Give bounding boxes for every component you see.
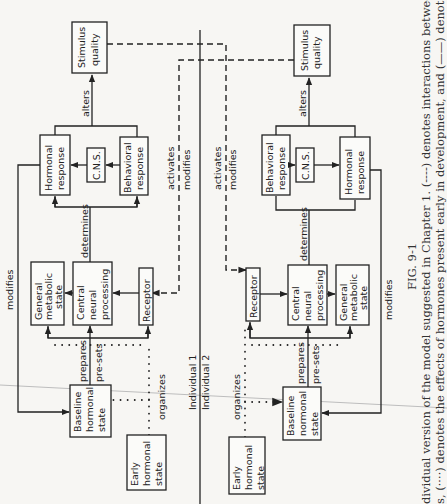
ind1-activates-label: activates	[165, 147, 176, 190]
ind2-baseline-text-1: Baseline	[285, 396, 296, 436]
ind1-baseline-text-1: Baseline	[72, 392, 83, 432]
ind2-baseline-text-3: state	[309, 412, 320, 436]
ind2-baseline-text-2: normonal	[297, 391, 308, 436]
ind1-prepares-label: prepares	[77, 340, 88, 382]
ind1-behavioral-text-2: response	[134, 147, 145, 190]
ind1-early-text-2: hormonal	[141, 441, 152, 486]
ind2-early-text-2: hormonal	[243, 445, 254, 490]
ind2-hormonal-text-2: response	[355, 151, 366, 194]
ind1-organizes-label: organizes	[156, 374, 167, 420]
ind1-hormonal-text-1: Hormonal	[43, 145, 54, 191]
ind2-presets-label: pre-sets	[310, 345, 321, 384]
ind2-cns-text: C.N.S.	[300, 151, 311, 180]
ind2-modifies-label: modifies	[383, 279, 394, 320]
ind1-hormonal-text-2: response	[55, 147, 66, 190]
figure-caption-line-1: dividual version of the model suggested …	[419, 0, 433, 504]
figure-number: FIG. 9-1	[405, 243, 419, 290]
ind2-stimulus-text-2: quality	[311, 36, 322, 69]
figure-diagram: Individual 1 Individual 2 activates modi…	[0, 0, 447, 504]
ind1-central-text-3: processing	[99, 269, 110, 320]
ind2-receptor-text: Receptor	[248, 275, 259, 318]
ind1-presets-label: pre-sets	[93, 343, 104, 382]
ind2-determines-label: determines	[298, 207, 309, 261]
ind2-metabolic-text-3: state	[358, 286, 369, 310]
ind2-prepares-label: prepares	[295, 342, 306, 384]
ind2-alters-label: alters	[297, 90, 308, 117]
ind1-modifies-dashed-label: modifies	[181, 149, 192, 190]
ind1-determines-bracket	[55, 196, 137, 207]
ind2-central-text-3: processing	[314, 270, 325, 321]
ind2-modifies-dashed-label: modifies	[227, 149, 238, 190]
ind2-behavioral-text-1: Behavioral	[264, 142, 275, 193]
ind1-early-text-1: Early	[129, 462, 140, 486]
ind2-behavioral-text-2: response	[276, 147, 287, 190]
ind1-baseline-text-3: state	[96, 408, 107, 432]
figure-caption-line-2: s, (····) denotes the effects of hormone…	[433, 0, 447, 504]
ind1-determines-label: determines	[79, 204, 90, 258]
ind1-baseline-text-2: hormonal	[84, 387, 95, 432]
ind1-modifies-label: modifies	[4, 269, 15, 310]
ind1-stimulus-text-2: quality	[89, 33, 100, 66]
ind2-stimulus-text-1: Stimulus	[299, 30, 310, 71]
individual-2: Stimulus quality alters Behavioral respo…	[229, 25, 394, 494]
ind1-cns-text: C.N.S.	[91, 151, 102, 180]
ind1-alters-label: alters	[80, 90, 91, 117]
ind2-central-text-2: neural	[302, 291, 313, 321]
ind2-early-text-3: state	[255, 466, 266, 490]
ind2-organizes-label: organizes	[231, 374, 242, 420]
individual-2-label: Individual 2	[200, 355, 211, 410]
ind2-central-text-1: Central	[290, 286, 301, 321]
ind2-early-text-1: Early	[231, 466, 242, 490]
ind1-behavioral-text-1: Behavioral	[122, 142, 133, 193]
individual-1: Stimulus quality alters Hormonal respons…	[4, 22, 167, 490]
individual-1-label: Individual 1	[187, 355, 198, 410]
ind2-activates-label: activates	[212, 147, 223, 190]
ind1-presets-bracket	[48, 326, 148, 338]
ind1-central-text-1: Central	[75, 285, 86, 320]
ind1-metabolic-text-3: state	[53, 285, 64, 309]
ind1-stimulus-text-1: Stimulus	[76, 27, 87, 68]
ind1-receptor-text: Receptor	[141, 279, 152, 322]
scan-artifact	[0, 385, 447, 408]
ind1-central-text-2: neural	[87, 290, 98, 320]
ind2-hormonal-text-1: Hormonal	[343, 149, 354, 195]
ind1-early-text-3: state	[153, 462, 164, 486]
